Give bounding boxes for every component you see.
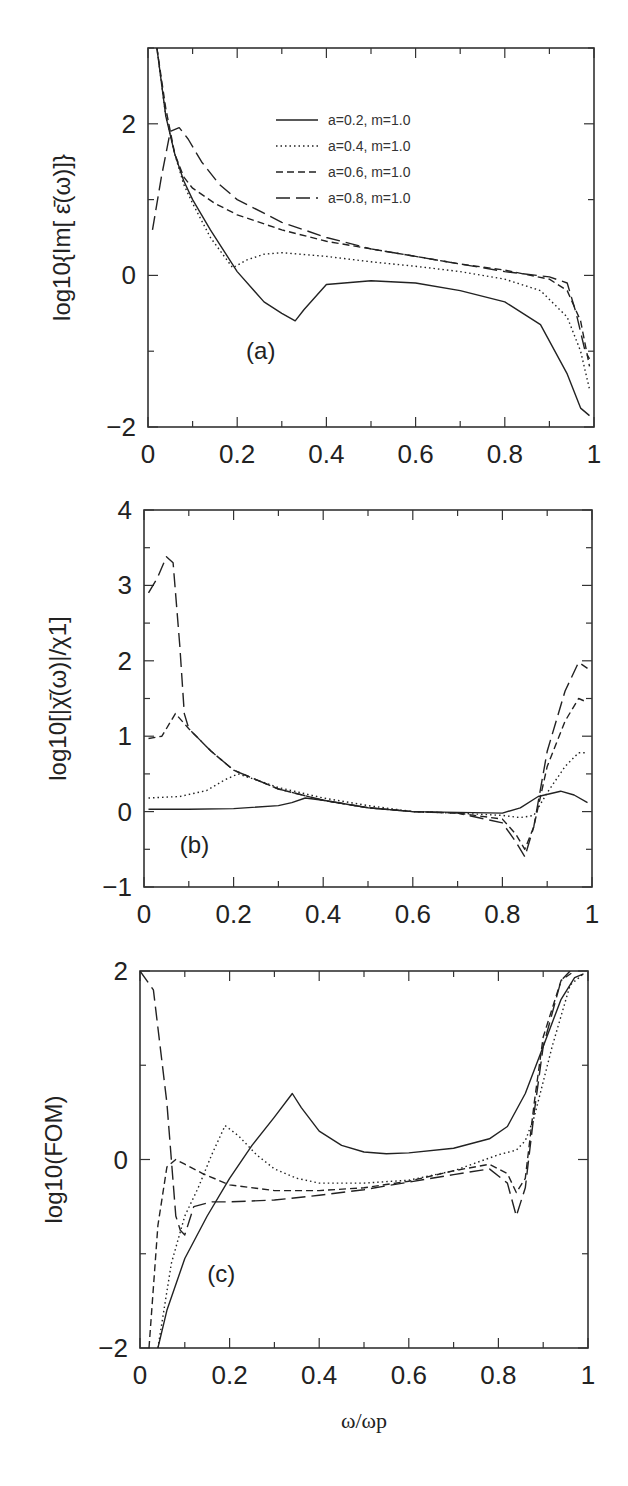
- series-line-dashed: [157, 48, 590, 366]
- y-tick-label: 0: [122, 260, 136, 290]
- series-line-long-dashed: [149, 557, 588, 857]
- series-line-dotted: [158, 974, 584, 1348]
- legend-label: a=0.6, m=1.0: [328, 164, 411, 180]
- x-tick-label: 0: [137, 899, 151, 929]
- panel-c: 00.20.40.60.81−202log10(FOM)(c)ω/ωp: [40, 956, 595, 1433]
- panel-a: 00.20.40.60.81−202log10{Im[ ε̄(ω)]}(a)a=…: [48, 48, 601, 469]
- series-line-long-dashed: [140, 971, 570, 1235]
- y-tick-label: 2: [118, 646, 132, 676]
- panel-b: 00.20.40.60.81−101234log10[|χ̄(ω)|/χ1](b…: [44, 495, 599, 929]
- y-tick-label: 4: [118, 495, 132, 525]
- y-tick-label: 3: [118, 570, 132, 600]
- plot-frame: [144, 510, 592, 887]
- y-axis-label: log10{Im[ ε̄(ω)]}: [48, 154, 75, 321]
- series-line-dashed: [149, 971, 575, 1348]
- legend: a=0.2, m=1.0a=0.4, m=1.0a=0.6, m=1.0a=0.…: [276, 112, 411, 206]
- y-tick-label: −2: [106, 412, 136, 442]
- series-line-solid: [158, 974, 584, 1348]
- y-tick-label: 2: [122, 109, 136, 139]
- figure: 00.20.40.60.81−202log10{Im[ ε̄(ω)]}(a)a=…: [0, 0, 628, 1486]
- x-tick-label: 0.2: [216, 899, 252, 929]
- series-line-solid: [149, 791, 588, 813]
- series-line-dotted: [157, 48, 590, 389]
- y-tick-label: 2: [114, 956, 128, 986]
- x-tick-label: 0.6: [398, 439, 434, 469]
- x-tick-label: 0: [141, 439, 155, 469]
- y-tick-label: −1: [102, 872, 132, 902]
- y-tick-label: 0: [114, 1145, 128, 1175]
- x-tick-label: 0.4: [301, 1360, 337, 1390]
- x-tick-label: 1: [581, 1360, 595, 1390]
- x-tick-label: 0.8: [487, 439, 523, 469]
- legend-label: a=0.8, m=1.0: [328, 190, 411, 206]
- plot-frame: [140, 971, 588, 1348]
- y-axis-label: log10[|χ̄(ω)|/χ1]: [44, 616, 71, 780]
- panel-tag: (c): [207, 1260, 235, 1287]
- y-tick-label: 0: [118, 797, 132, 827]
- x-tick-label: 0.8: [484, 899, 520, 929]
- y-axis-label: log10(FOM): [40, 1095, 67, 1223]
- x-tick-label: 0.2: [212, 1360, 248, 1390]
- panel-tag: (b): [180, 831, 209, 858]
- series-line-dashed: [149, 699, 588, 850]
- series-line-solid: [157, 48, 590, 416]
- x-tick-label: 0.6: [395, 899, 431, 929]
- x-tick-label: 0.6: [391, 1360, 427, 1390]
- x-tick-label: 1: [585, 899, 599, 929]
- x-tick-label: 0.4: [305, 899, 341, 929]
- x-tick-label: 0.4: [308, 439, 344, 469]
- x-tick-label: 0: [133, 1360, 147, 1390]
- y-tick-label: −2: [98, 1333, 128, 1363]
- legend-label: a=0.2, m=1.0: [328, 112, 411, 128]
- x-tick-label: 1: [587, 439, 601, 469]
- x-tick-label: 0.2: [219, 439, 255, 469]
- x-tick-label: 0.8: [480, 1360, 516, 1390]
- series-line-long-dashed: [153, 128, 590, 359]
- y-tick-label: 1: [118, 721, 132, 751]
- legend-label: a=0.4, m=1.0: [328, 138, 411, 154]
- panel-tag: (a): [246, 337, 275, 364]
- x-axis-label: ω/ωp: [341, 1408, 387, 1433]
